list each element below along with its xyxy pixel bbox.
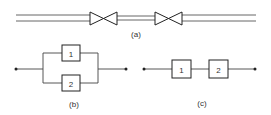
valve-icon <box>90 12 117 25</box>
reliability-diagram: (a) 1 2 (b) 1 2 (c) <box>0 0 271 115</box>
terminal-dot <box>15 68 18 71</box>
label-c: (c) <box>197 99 207 108</box>
block-2-label: 2 <box>69 80 74 89</box>
pipe-diagram-a <box>16 15 256 21</box>
valve-icon <box>155 12 182 25</box>
label-a: (a) <box>131 30 141 39</box>
block-1-label: 1 <box>69 50 74 59</box>
terminal-dot <box>125 68 128 71</box>
block-1-label: 1 <box>179 66 184 75</box>
terminal-dot <box>143 68 146 71</box>
block-2-label: 2 <box>216 66 221 75</box>
label-b: (b) <box>69 100 79 109</box>
terminal-dot <box>254 68 257 71</box>
